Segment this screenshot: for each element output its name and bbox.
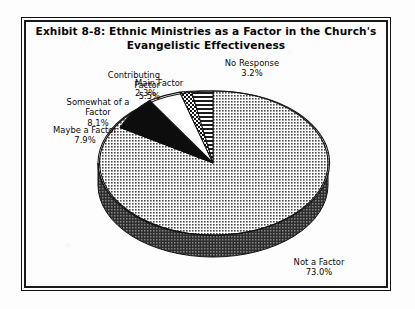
slice-label-somewhat-name-1: Somewhat of a — [67, 97, 130, 107]
slice-label-main-factor-pct: 2.3% — [135, 88, 183, 98]
slice-label-main-factor-name: Main Factor — [135, 78, 183, 88]
slice-label-not-a-factor: Not a Factor 73.0% — [294, 257, 345, 278]
slice-label-somewhat-of-a-factor: Somewhat of a Factor 8.1% — [67, 97, 130, 128]
slice-label-no-response-pct: 3.2% — [225, 68, 279, 78]
pie-chart-svg — [24, 20, 388, 288]
pie-chart — [24, 20, 388, 288]
exhibit-page: Exhibit 8-8: Ethnic Ministries as a Fact… — [0, 0, 415, 309]
slice-label-no-response: No Response 3.2% — [225, 58, 279, 79]
slice-label-not-a-factor-pct: 73.0% — [294, 267, 345, 277]
slice-label-main-factor: Main Factor 2.3% — [135, 78, 183, 99]
slice-label-maybe-a-factor-pct: 7.9% — [53, 135, 117, 145]
slice-label-maybe-a-factor: Maybe a Factor 7.9% — [53, 125, 117, 146]
slice-label-no-response-name: No Response — [225, 58, 279, 68]
slice-label-somewhat-name-2: Factor — [67, 107, 130, 117]
slice-label-maybe-a-factor-name: Maybe a Factor — [53, 125, 117, 135]
slice-label-not-a-factor-name: Not a Factor — [294, 257, 345, 267]
